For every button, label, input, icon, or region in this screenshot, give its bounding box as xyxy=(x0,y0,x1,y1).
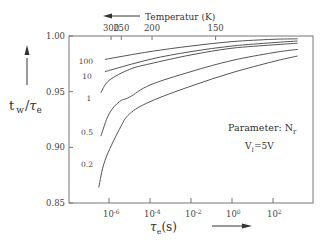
y-tick-label: 1.00 xyxy=(46,31,65,41)
curve-labels: 1001010.50.2 xyxy=(79,57,94,169)
y-axis-label: tw/τe xyxy=(9,98,42,115)
svg-text:Parameter: Nr: Parameter: Nr xyxy=(228,122,297,136)
svg-text:VI=5V: VI=5V xyxy=(244,141,274,153)
curve-nr-100 xyxy=(105,39,298,60)
top-tick-label: 200 xyxy=(144,23,160,33)
top-temperature-axis: 300250200150 xyxy=(103,23,224,40)
arrow-right-icon xyxy=(242,224,252,229)
y-tick-label: 0.95 xyxy=(46,87,65,97)
temperature-axis-title: Temperatur (K) xyxy=(103,12,215,22)
curve-label: 0.2 xyxy=(81,160,93,169)
arrow-left-icon xyxy=(103,14,112,19)
annotation-parameter: Parameter: Nr xyxy=(228,122,297,136)
x-axis: 10-610-410-2100102 xyxy=(103,198,282,219)
temperature-label: Temperatur (K) xyxy=(145,12,215,22)
x-axis-label: τe(s) xyxy=(150,220,177,236)
x-tick-label: 10-4 xyxy=(144,208,161,220)
x-tick-label: 10-2 xyxy=(185,208,202,220)
x-tick-label: 100 xyxy=(226,208,241,220)
curve-label: 0.5 xyxy=(81,128,93,137)
curve-label: 100 xyxy=(79,57,94,66)
chart: 1.000.950.900.85 10-610-410-2100102 3002… xyxy=(0,0,321,244)
top-tick-label: 150 xyxy=(207,23,223,33)
x-axis-title: τe(s) xyxy=(150,220,252,236)
arrow-up-icon xyxy=(25,45,30,55)
y-axis-title: tw/τe xyxy=(9,45,42,115)
annotation-voltage: VI=5V xyxy=(244,141,274,153)
curve-label: 10 xyxy=(82,72,92,81)
y-tick-label: 0.90 xyxy=(46,142,65,152)
y-tick-label: 0.85 xyxy=(46,198,65,208)
x-tick-label: 10-6 xyxy=(103,208,120,220)
curves xyxy=(99,39,298,188)
x-tick-label: 102 xyxy=(267,208,282,220)
top-tick-label: 250 xyxy=(113,23,129,33)
curve-label: 1 xyxy=(87,94,92,103)
